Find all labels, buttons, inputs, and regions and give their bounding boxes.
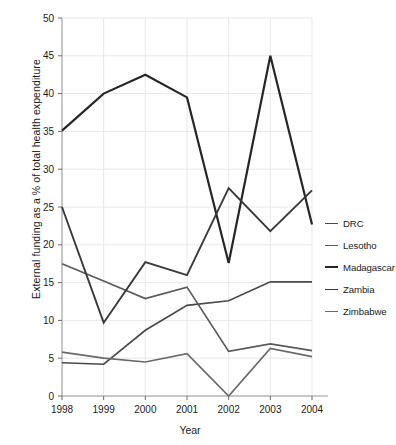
y-tick-label: 5 xyxy=(48,353,54,364)
line-chart: External funding as a % of total health … xyxy=(0,0,396,445)
x-tick-label: 2003 xyxy=(259,404,282,415)
legend: DRCLesothoMadagascarZambiaZimbabwe xyxy=(325,212,396,322)
x-tick-label: 2002 xyxy=(218,404,241,415)
y-tick-label: 50 xyxy=(43,13,55,24)
legend-item-zambia[interactable]: Zambia xyxy=(325,278,396,300)
legend-item-label: Zimbabwe xyxy=(343,306,386,317)
legend-item-zimbabwe[interactable]: Zimbabwe xyxy=(325,300,396,322)
y-tick-label: 20 xyxy=(43,239,55,250)
y-tick-label: 15 xyxy=(43,277,55,288)
x-tick-label: 1998 xyxy=(51,404,74,415)
y-tick-label: 25 xyxy=(43,202,55,213)
x-tick-label: 2000 xyxy=(134,404,157,415)
x-axis-title: Year xyxy=(55,424,325,436)
y-tick-label: 40 xyxy=(43,88,55,99)
legend-swatch-icon xyxy=(325,245,338,246)
x-tick-label: 2004 xyxy=(301,404,324,415)
legend-item-drc[interactable]: DRC xyxy=(325,212,396,234)
legend-item-label: Lesotho xyxy=(343,240,376,251)
y-tick-label: 45 xyxy=(43,50,55,61)
x-axis-ticks: 1998199920002001200220032004 xyxy=(51,396,324,415)
y-tick-label: 10 xyxy=(43,315,55,326)
legend-item-label: Zambia xyxy=(343,284,374,295)
y-tick-label: 0 xyxy=(48,391,54,402)
legend-swatch-icon xyxy=(325,223,338,224)
x-tick-label: 2001 xyxy=(176,404,199,415)
legend-item-lesotho[interactable]: Lesotho xyxy=(325,234,396,256)
legend-swatch-icon xyxy=(325,311,338,312)
gridlines xyxy=(62,18,328,396)
legend-swatch-icon xyxy=(325,266,338,268)
legend-item-label: DRC xyxy=(343,218,364,229)
legend-swatch-icon xyxy=(325,289,338,290)
y-tick-label: 35 xyxy=(43,126,55,137)
legend-item-madagascar[interactable]: Madagascar xyxy=(325,256,396,278)
legend-item-label: Madagascar xyxy=(343,262,395,273)
y-axis-ticks: 50454035302520151050 xyxy=(43,13,62,402)
x-tick-label: 1999 xyxy=(93,404,116,415)
y-tick-label: 30 xyxy=(43,164,55,175)
